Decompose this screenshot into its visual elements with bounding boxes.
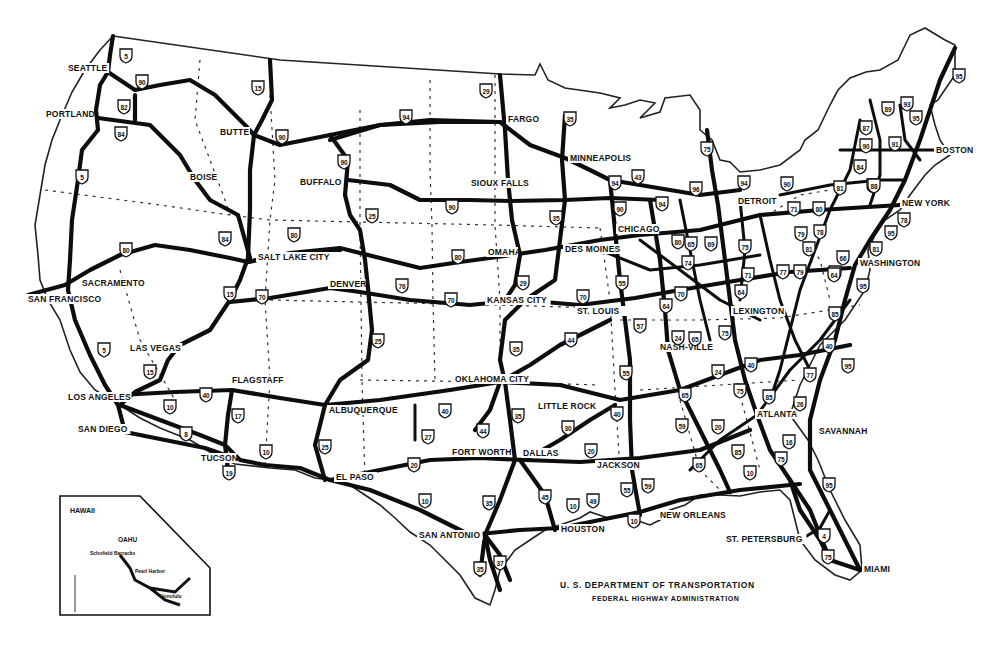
shield-i81: 81 [803,242,815,256]
shield-number: 90 [616,206,624,213]
city-label: DALLAS [523,448,559,458]
city-flagstaff: FLAGSTAFF [230,375,284,385]
shield-i30: 30 [562,421,574,435]
shield-i59: 59 [676,419,688,433]
shield-i40: 40 [439,404,451,418]
shield-i79: 79 [795,227,807,241]
city-label: MINNEAPOLIS [570,153,631,163]
shield-number: 90 [278,134,286,141]
shield-number: 40 [747,362,755,369]
city-label: FARGO [508,114,539,124]
hawaii-title: HAWAII [70,507,95,514]
shield-number: 70 [677,291,685,298]
shield-i95: 95 [953,69,965,83]
shield-number: 75 [736,388,744,395]
city-label: FORT WORTH [452,447,512,457]
shield-number: 10 [569,503,577,510]
shield-i35: 35 [550,211,562,225]
city-seattle: SEATTLE [66,63,109,73]
city-label: SALT LAKE CITY [258,252,330,262]
city-atlanta: ATLANTA [755,409,798,419]
shield-i85: 85 [829,307,841,321]
shield-number: 35 [552,215,560,222]
hawaii-inset: HAWAII OAHU Schofield Barracks Pearl Har… [60,496,210,615]
shield-number: 15 [254,85,262,92]
shield-number: 40 [825,343,833,350]
city-label: LEXINGTON [733,306,784,316]
shield-number: 90 [862,143,870,150]
shield-number: 64 [662,303,670,310]
shield-i84: 84 [115,127,127,141]
shield-number: 90 [138,79,146,86]
shield-number: 17 [234,413,242,420]
shield-number: 26 [796,401,804,408]
route-shields: 5908284159052994359090258480808035291570… [76,49,965,576]
shield-i77: 77 [777,265,789,279]
city-label: TUCSON [201,453,238,463]
shield-number: 89 [884,106,892,113]
shield-number: 19 [225,470,233,477]
shield-i90: 90 [276,130,288,144]
city-san-antonio: SAN ANTONIO [417,530,483,540]
shield-i77: 77 [804,368,816,382]
shield-i24: 24 [672,331,684,345]
city-label: LOS ANGELES [68,392,131,402]
city-dallas: DALLAS [521,448,559,458]
shield-i95: 95 [885,226,897,240]
city-boston: BOSTON [934,145,973,155]
shield-i90: 90 [136,75,148,89]
city-label: SAN DIEGO [78,424,128,434]
shield-i40: 40 [745,358,757,372]
shield-number: 15 [226,291,234,298]
city-portland: PORTLAND [44,109,95,119]
shield-i75: 75 [775,452,787,466]
shield-i82: 82 [118,100,130,114]
city-albuquerque: ALBUQUERQUE [327,405,398,415]
city-label: ST. PETERSBURG [726,534,803,544]
city-savannah: SAVANNAH [817,426,868,436]
shield-number: 25 [368,213,376,220]
shield-i69: 69 [705,237,717,251]
shield-i25: 25 [319,440,331,454]
shield-number: 87 [862,125,870,132]
credit-line-1: U. S. DEPARTMENT OF TRANSPORTATION [560,580,755,590]
city-label: OMAHA [488,247,521,257]
shield-number: 29 [519,280,527,287]
shield-i74: 74 [682,256,694,270]
shield-i35: 35 [564,112,576,126]
shield-number: 35 [485,500,493,507]
city-lexington: LEXINGTON [731,306,785,316]
shield-number: 35 [514,413,522,420]
city-omaha: OMAHA [486,247,521,257]
interstate-map: SEATTLEPORTLANDBOISEBUTTEBUFFALOFARGOMIN… [0,0,1004,653]
shield-i59: 59 [642,479,654,493]
city-label: SEATTLE [68,63,108,73]
shield-number: 20 [587,448,595,455]
shield-number: 5 [124,53,128,60]
shield-i5: 5 [120,49,132,63]
shield-i80: 80 [452,250,464,264]
shield-number: 80 [122,247,130,254]
shield-number: 85 [831,311,839,318]
shield-number: 80 [815,206,823,213]
shield-i95: 95 [910,111,922,125]
shield-number: 25 [321,444,329,451]
shield-number: 90 [340,159,348,166]
shield-number: 71 [744,272,752,279]
shield-i24: 24 [712,365,724,379]
shield-i89: 89 [882,102,894,116]
shield-number: 75 [777,456,785,463]
shield-number: 77 [779,269,787,276]
shield-i40: 40 [823,339,835,353]
city-label: WASHINGTON [860,258,920,268]
shield-number: 65 [691,336,699,343]
city-label: SIOUX FALLS [471,178,529,188]
shield-i71: 71 [742,268,754,282]
city-label: OKLAHOMA CITY [455,374,529,384]
shield-i80: 80 [672,235,684,249]
city-washington: WASHINGTON [858,258,920,268]
shield-i90: 90 [338,155,350,169]
city-label: CHICAGO [618,224,660,234]
shield-number: 69 [707,241,715,248]
shield-i90: 90 [614,202,626,216]
